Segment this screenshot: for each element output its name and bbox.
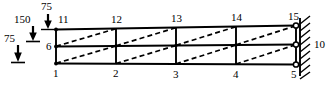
node-label-3: 3: [173, 69, 179, 80]
node-label-6: 6: [46, 41, 52, 52]
support-joint-5: [293, 62, 298, 67]
fixed-support-wall: [300, 16, 310, 79]
node-label-13: 13: [171, 13, 182, 24]
node-label-1: 1: [53, 68, 59, 79]
node-label-14: 14: [231, 12, 242, 23]
brace-upper-3: [176, 27, 236, 46]
brace-lower-1: [56, 46, 116, 63]
joint-11: [54, 28, 58, 32]
joint-1: [54, 62, 58, 66]
support-joint-10: [293, 42, 298, 47]
joint-6: [54, 45, 58, 49]
load-label-top: 75: [41, 1, 52, 12]
support-joint-15: [293, 23, 298, 28]
brace-lower-3: [176, 45, 236, 64]
joint-interior-mid-3: [234, 43, 237, 46]
structural-frame-diagram: 75 150 75 11 12 13 14 15 6 10 1 2 3 4 5: [0, 0, 335, 85]
load-label-middle: 150: [14, 14, 31, 25]
load-label-bottom: 75: [4, 33, 15, 44]
node-label-12: 12: [111, 14, 122, 25]
node-label-15: 15: [288, 11, 299, 22]
joint-interior-mid-1: [114, 44, 117, 47]
brace-lower-4: [236, 45, 296, 64]
load-arrow-top: [44, 14, 52, 29]
node-label-5: 5: [291, 69, 297, 80]
joint-interior-mid-2: [174, 44, 177, 47]
brace-lower-2: [116, 46, 176, 64]
node-label-4: 4: [233, 69, 239, 80]
node-label-2: 2: [113, 68, 119, 79]
node-label-11: 11: [58, 14, 69, 25]
brace-upper-1: [56, 29, 116, 47]
brace-upper-2: [116, 28, 176, 46]
node-label-10: 10: [314, 39, 325, 50]
load-arrow-middle: [26, 26, 40, 42]
brace-upper-4: [236, 26, 296, 45]
load-arrow-bottom: [11, 45, 25, 63]
